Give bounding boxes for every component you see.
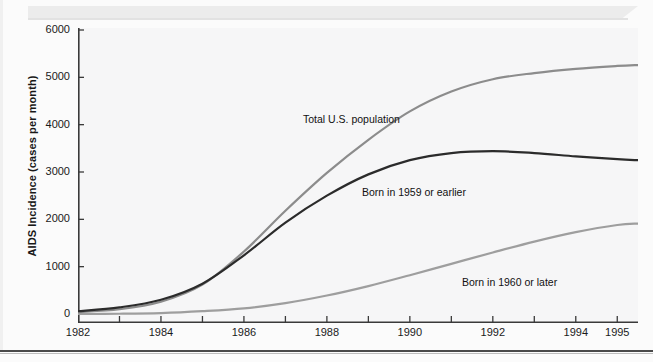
x-axis-tick-label: 1994 — [564, 326, 588, 338]
y-axis-tick-label: 4000 — [46, 118, 70, 130]
x-axis-tick-label: 1995 — [605, 326, 629, 338]
chart-page: AIDS Incidence (cases per month) 0100020… — [0, 0, 653, 362]
x-axis-tick-label: 1990 — [398, 326, 422, 338]
x-axis-tick-label: 1988 — [315, 326, 339, 338]
page-top-banner — [28, 6, 638, 18]
y-axis-tick-label: 5000 — [46, 70, 70, 82]
x-axis-tick-label: 1984 — [149, 326, 173, 338]
annotation-born-1959-or-earlier: Born in 1959 or earlier — [362, 186, 466, 198]
y-axis-tick-label: 1000 — [46, 260, 70, 272]
y-axis-tick-label: 2000 — [46, 212, 70, 224]
x-axis-tick-label: 1992 — [481, 326, 505, 338]
y-axis-tick-label: 0 — [64, 307, 70, 319]
page-top-banner-edge — [28, 18, 628, 20]
page-bottom-rule-shadow — [0, 353, 653, 354]
y-axis-tick-label: 6000 — [46, 23, 70, 35]
x-axis-tick-label: 1982 — [66, 326, 90, 338]
annotation-total-us-population: Total U.S. population — [303, 113, 400, 125]
page-bottom-rule — [0, 350, 653, 352]
y-axis-tick-labels: 0100020003000400050006000 — [28, 28, 70, 323]
annotation-born-1960-or-later: Born in 1960 or later — [462, 276, 557, 288]
x-axis-tick-label: 1986 — [232, 326, 256, 338]
y-axis-tick-label: 3000 — [46, 165, 70, 177]
x-axis-tick-labels: 19821984198619881990199219941995 — [78, 326, 638, 346]
page-left-edge — [0, 0, 3, 352]
